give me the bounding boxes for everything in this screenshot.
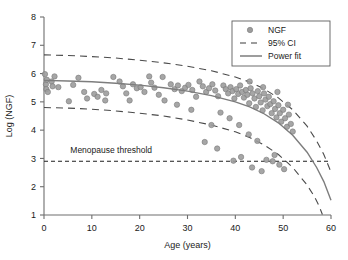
data-point xyxy=(232,96,237,101)
data-point xyxy=(142,89,147,94)
data-point xyxy=(197,79,202,84)
data-point xyxy=(258,100,263,105)
data-point xyxy=(147,74,152,79)
x-tick-label-0: 0 xyxy=(41,223,46,233)
data-point xyxy=(277,162,282,167)
y-tick-label-7: 7 xyxy=(31,40,36,50)
data-point xyxy=(103,98,108,103)
data-point xyxy=(261,91,266,96)
data-point xyxy=(276,103,281,108)
data-point xyxy=(259,168,264,173)
data-point xyxy=(81,89,86,94)
data-point xyxy=(156,92,161,97)
legend-label-ci: 95% CI xyxy=(268,38,296,48)
data-point xyxy=(200,84,205,89)
data-point xyxy=(275,89,280,94)
data-point xyxy=(175,83,180,88)
data-point xyxy=(111,74,116,79)
data-point xyxy=(246,132,251,137)
data-point xyxy=(99,87,104,92)
chart-svg: 123456780102030405060Age (years)Log (NGF… xyxy=(0,0,348,260)
y-tick-label-8: 8 xyxy=(31,12,36,22)
data-point xyxy=(271,99,276,104)
data-point xyxy=(214,146,219,151)
data-point xyxy=(285,102,290,107)
y-axis-title: Log (NGF) xyxy=(4,95,14,138)
data-point xyxy=(248,86,253,91)
data-point xyxy=(49,79,54,84)
data-point xyxy=(272,152,277,157)
data-point xyxy=(162,98,167,103)
data-point xyxy=(260,84,265,89)
data-point xyxy=(124,91,129,96)
data-point xyxy=(160,74,165,79)
y-tick-label-1: 1 xyxy=(31,210,36,220)
scatter-points xyxy=(42,71,295,173)
data-point xyxy=(245,92,250,97)
chart-figure: 123456780102030405060Age (years)Log (NGF… xyxy=(0,0,348,260)
data-point xyxy=(281,166,286,171)
data-point xyxy=(56,84,61,89)
data-point xyxy=(210,82,215,87)
data-point xyxy=(202,139,207,144)
data-point xyxy=(95,94,100,99)
legend-label-ngf: NGF xyxy=(268,25,286,35)
data-point xyxy=(52,74,57,79)
data-point xyxy=(264,157,269,162)
data-point xyxy=(255,138,260,143)
x-tick-label-50: 50 xyxy=(278,223,288,233)
x-axis-title: Age (years) xyxy=(164,240,211,250)
data-point xyxy=(247,79,252,84)
y-tick-label-4: 4 xyxy=(31,125,36,135)
x-tick-label-20: 20 xyxy=(135,223,145,233)
data-point xyxy=(250,91,255,96)
data-point xyxy=(257,94,262,99)
y-tick-label-2: 2 xyxy=(31,182,36,192)
x-tick-label-30: 30 xyxy=(182,223,192,233)
data-point xyxy=(249,165,254,170)
data-point xyxy=(255,88,260,93)
data-point xyxy=(189,107,194,112)
data-point xyxy=(186,82,191,87)
data-point xyxy=(227,116,232,121)
x-tick-label-40: 40 xyxy=(230,223,240,233)
x-tick-label-60: 60 xyxy=(326,223,336,233)
y-tick-label-5: 5 xyxy=(31,97,36,107)
data-point xyxy=(247,101,252,106)
menopause-threshold-label: Menopause threshold xyxy=(70,145,152,155)
legend-marker-ngf xyxy=(247,27,252,32)
x-tick-label-10: 10 xyxy=(87,223,97,233)
data-point xyxy=(152,85,157,90)
data-point xyxy=(103,91,108,96)
data-point xyxy=(286,112,291,117)
data-point xyxy=(231,158,236,163)
data-point xyxy=(193,94,198,99)
data-point xyxy=(70,82,75,87)
data-point xyxy=(76,75,81,80)
data-point xyxy=(213,88,218,93)
data-point xyxy=(42,71,47,76)
data-point xyxy=(237,83,242,88)
data-point xyxy=(270,159,275,164)
data-point xyxy=(218,110,223,115)
data-point xyxy=(66,99,71,104)
data-point xyxy=(288,121,293,126)
data-point xyxy=(238,154,243,159)
data-point xyxy=(209,122,214,127)
data-point xyxy=(45,89,50,94)
data-point xyxy=(127,98,132,103)
data-point xyxy=(50,84,55,89)
y-tick-label-3: 3 xyxy=(31,154,36,164)
data-point xyxy=(280,107,285,112)
y-tick-label-6: 6 xyxy=(31,69,36,79)
legend-label-powerfit: Power fit xyxy=(268,51,302,61)
data-point xyxy=(148,80,153,85)
data-point xyxy=(174,102,179,107)
data-point xyxy=(84,96,89,101)
data-point xyxy=(236,122,241,127)
data-point xyxy=(168,82,173,87)
data-point xyxy=(266,94,271,99)
